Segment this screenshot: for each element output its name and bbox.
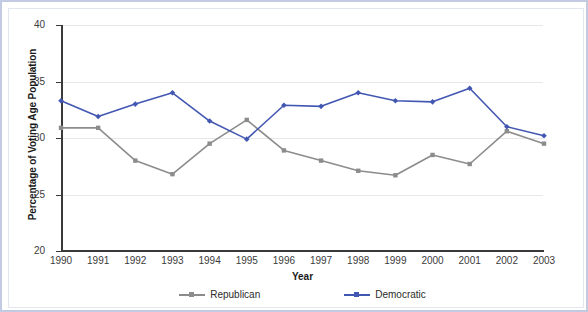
data-point (467, 162, 471, 166)
data-point (541, 133, 547, 139)
data-point (393, 173, 397, 177)
data-point (96, 126, 100, 130)
legend-item[interactable]: Democratic (344, 289, 426, 300)
data-point (319, 158, 323, 162)
data-point (59, 126, 63, 130)
data-point (207, 141, 211, 145)
chart-frame-outer: Percentage of Voting Age Population 2025… (0, 0, 588, 312)
data-point (95, 114, 101, 120)
legend-label: Democratic (375, 289, 426, 300)
data-point (505, 129, 509, 133)
line-chart: Percentage of Voting Age Population 2025… (9, 9, 585, 309)
legend-swatch-icon (179, 290, 205, 299)
chart-legend: RepublicanDemocratic (61, 289, 544, 300)
series-line-republican (61, 120, 544, 175)
data-point (430, 99, 436, 105)
legend-label: Republican (210, 289, 260, 300)
data-point (542, 141, 546, 145)
data-point (58, 98, 64, 104)
legend-swatch-icon (344, 290, 370, 299)
data-point (282, 148, 286, 152)
data-point (133, 158, 137, 162)
data-point (133, 101, 139, 107)
data-point (318, 104, 324, 110)
chart-frame-inner: Percentage of Voting Age Population 2025… (8, 8, 584, 308)
data-point (355, 90, 361, 96)
series-line-democratic (61, 88, 544, 139)
data-point (170, 172, 174, 176)
x-axis-title: Year (61, 271, 544, 282)
x-tick-label: 2003 (522, 255, 566, 266)
legend-item[interactable]: Republican (179, 289, 260, 300)
data-point (430, 153, 434, 157)
data-point (393, 98, 399, 104)
data-point (245, 118, 249, 122)
data-point (356, 169, 360, 173)
